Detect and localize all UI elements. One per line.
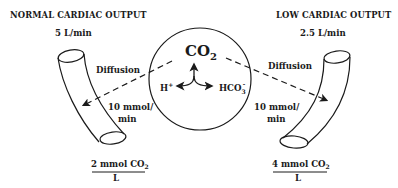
bicarbonate-ion: HCO3- bbox=[219, 80, 246, 95]
right-flow-rate: 2.5 L/min bbox=[300, 28, 346, 38]
left-concentration-subscript: 2 bbox=[144, 163, 148, 170]
left-title: NORMAL CARDIAC OUTPUT bbox=[10, 10, 147, 20]
left-diffusion-label: Diffusion bbox=[96, 65, 141, 75]
left-panel-normal-output: NORMAL CARDIAC OUTPUT 5 L/min Diffusion … bbox=[10, 10, 172, 183]
left-rate-line1: 10 mmol/ bbox=[108, 102, 154, 112]
right-concentration: 4 mmol CO2 L bbox=[272, 159, 330, 183]
left-vessel-icon bbox=[57, 48, 127, 146]
hydrogen-ion: H+ bbox=[160, 81, 173, 93]
right-concentration-numerator: 4 mmol CO bbox=[272, 159, 326, 169]
right-rate-line1: 10 mmol/ bbox=[254, 102, 300, 112]
svg-text:2 mmol CO2: 2 mmol CO2 bbox=[91, 159, 149, 170]
left-flow-rate: 5 L/min bbox=[55, 28, 93, 38]
right-diffusion-label: Diffusion bbox=[268, 61, 313, 71]
right-rate-line2: min bbox=[267, 114, 286, 124]
right-panel-low-output: LOW CARDIAC OUTPUT 2.5 L/min Diffusion 1… bbox=[226, 10, 392, 183]
co2-molecule: CO2 bbox=[185, 42, 217, 62]
left-concentration-numerator: 2 mmol CO bbox=[91, 159, 145, 169]
left-concentration-denominator: L bbox=[113, 173, 119, 183]
cardiac-output-co2-diagram: NORMAL CARDIAC OUTPUT 5 L/min Diffusion … bbox=[0, 0, 398, 188]
right-concentration-subscript: 2 bbox=[325, 163, 329, 170]
left-rate-line2: min bbox=[118, 114, 137, 124]
reaction-arrows-icon bbox=[178, 65, 211, 86]
left-concentration: 2 mmol CO2 L bbox=[91, 159, 149, 183]
right-title: LOW CARDIAC OUTPUT bbox=[276, 10, 392, 20]
center-cell: CO2 H+ HCO3- bbox=[149, 28, 251, 130]
right-concentration-denominator: L bbox=[295, 173, 301, 183]
svg-text:4 mmol CO2: 4 mmol CO2 bbox=[272, 159, 330, 170]
